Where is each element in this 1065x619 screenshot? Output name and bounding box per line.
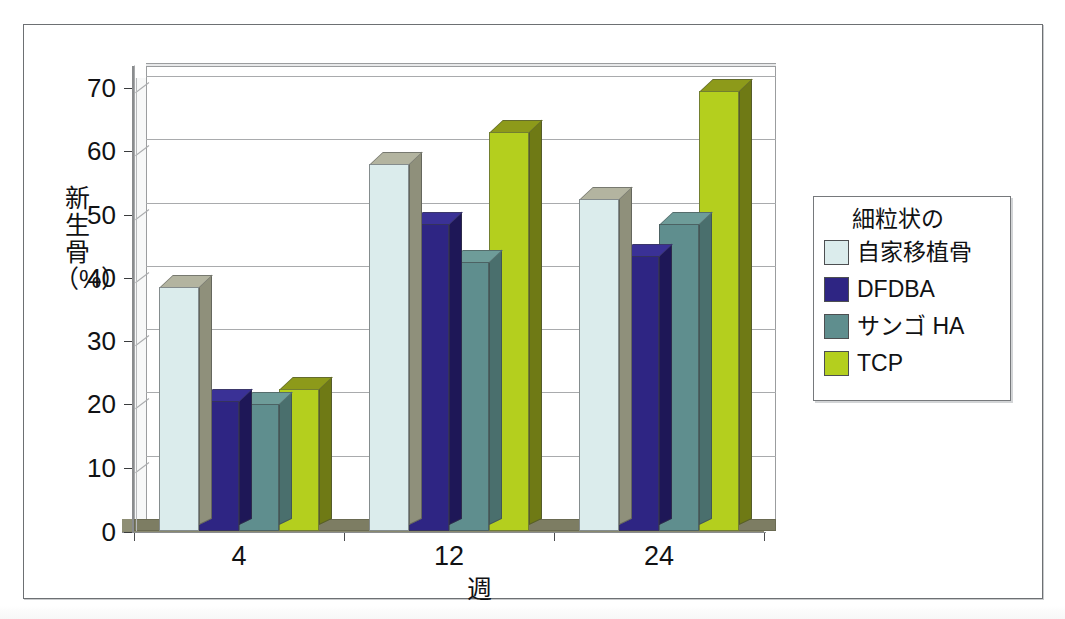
y-tick-label: 20 bbox=[24, 391, 116, 417]
bar bbox=[579, 199, 619, 531]
bar-front-face bbox=[369, 164, 409, 531]
x-tick-mark bbox=[134, 533, 135, 541]
bar-side-face bbox=[699, 212, 712, 525]
y-axis-title: 新生骨（%） bbox=[54, 185, 100, 293]
chart-plot-area: 010203040506070 41224 新生骨（%） 週 細粒状の 自家移植… bbox=[24, 25, 1044, 600]
bar-side-face bbox=[409, 152, 422, 525]
y-axis-title-char: 生 bbox=[54, 212, 100, 239]
x-tick-label: 24 bbox=[554, 543, 764, 570]
y-tick-mark bbox=[124, 215, 132, 216]
scan-artifact-strip bbox=[0, 606, 1065, 619]
bar bbox=[159, 287, 199, 531]
legend-label: サンゴ HA bbox=[857, 315, 964, 338]
y-tick-label: 30 bbox=[24, 328, 116, 354]
x-axis-title-text: 週 bbox=[467, 575, 492, 603]
gridline bbox=[146, 139, 776, 140]
y-tick-label: 60 bbox=[24, 138, 116, 164]
y-axis-title-char: 骨 bbox=[54, 239, 100, 266]
legend-item: TCP bbox=[824, 346, 1010, 380]
y-axis-title-char: 新 bbox=[54, 185, 100, 212]
y-tick-mark bbox=[124, 404, 132, 405]
legend-swatch bbox=[824, 314, 849, 339]
y-axis-title-char: （%） bbox=[54, 266, 100, 293]
y-tick-mark bbox=[124, 88, 132, 89]
x-axis-line bbox=[122, 532, 766, 533]
legend: 細粒状の 自家移植骨DFDBAサンゴ HATCP bbox=[813, 196, 1011, 401]
bar-side-face bbox=[279, 392, 292, 525]
bar-front-face bbox=[159, 287, 199, 531]
y-axis-line bbox=[132, 66, 134, 532]
x-tick-mark bbox=[764, 533, 765, 541]
bar-side-face bbox=[489, 250, 502, 525]
y-tick-label: 70 bbox=[24, 75, 116, 101]
y-tick-mark bbox=[124, 341, 132, 342]
legend-label: 自家移植骨 bbox=[857, 241, 972, 264]
bar-side-face bbox=[199, 275, 212, 525]
legend-item: DFDBA bbox=[824, 272, 1010, 306]
legend-item: サンゴ HA bbox=[824, 309, 1010, 343]
y-axis-inner-line bbox=[136, 78, 137, 531]
figure-frame: 010203040506070 41224 新生骨（%） 週 細粒状の 自家移植… bbox=[23, 24, 1043, 599]
legend-title: 細粒状の bbox=[852, 207, 1010, 232]
x-tick-mark bbox=[344, 533, 345, 541]
bar-front-face bbox=[579, 199, 619, 531]
y-tick-mark bbox=[124, 151, 132, 152]
legend-swatch bbox=[824, 351, 849, 376]
legend-item: 自家移植骨 bbox=[824, 235, 1010, 269]
bar-side-face bbox=[449, 212, 462, 525]
x-tick-label: 12 bbox=[344, 543, 554, 570]
bar-side-face bbox=[239, 389, 252, 525]
legend-swatch bbox=[824, 240, 849, 265]
x-tick-mark bbox=[554, 533, 555, 541]
legend-label: DFDBA bbox=[857, 278, 935, 301]
y-tick-mark bbox=[124, 532, 132, 533]
gridline bbox=[146, 203, 776, 204]
legend-rows: 自家移植骨DFDBAサンゴ HATCP bbox=[814, 235, 1010, 380]
legend-swatch bbox=[824, 277, 849, 302]
bar-side-face bbox=[319, 376, 332, 525]
y-tick-mark bbox=[124, 468, 132, 469]
y-tick-label: 10 bbox=[24, 455, 116, 481]
y-tick-label: 0 bbox=[24, 519, 116, 545]
x-tick-label: 4 bbox=[134, 543, 344, 570]
gridline bbox=[146, 76, 776, 77]
bar-side-face bbox=[739, 79, 752, 525]
legend-label: TCP bbox=[857, 352, 903, 375]
bar-side-face bbox=[619, 186, 632, 525]
bar-side-face bbox=[659, 243, 672, 525]
bar bbox=[369, 164, 409, 531]
bar-side-face bbox=[529, 120, 542, 525]
x-axis-title: 週 bbox=[24, 577, 1044, 602]
